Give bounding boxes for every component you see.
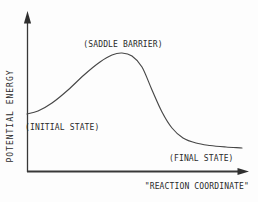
- final-state-label: (FINAL STATE): [169, 154, 234, 163]
- diagram-canvas: (SADDLE BARRIER) (INITIAL STATE) (FINAL …: [0, 0, 258, 202]
- x-axis-label: "REACTION COORDINATE": [145, 182, 249, 191]
- saddle-barrier-label: (SADDLE BARRIER): [83, 40, 162, 49]
- potential-energy-curve: [27, 53, 242, 148]
- y-axis-arrow-icon: [24, 11, 31, 24]
- reaction-coordinate-diagram: (SADDLE BARRIER) (INITIAL STATE) (FINAL …: [0, 0, 258, 202]
- y-axis-label: POTENTIAL ENERGY: [6, 69, 15, 162]
- x-axis-arrow-icon: [238, 168, 250, 175]
- initial-state-label: (INITIAL STATE): [25, 123, 100, 132]
